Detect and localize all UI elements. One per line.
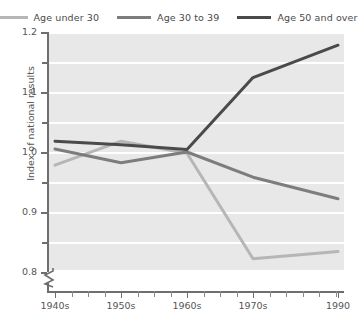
legend-item-age-50-and-over[interactable]: Age 50 and over [237, 12, 357, 23]
y-axis-line [47, 32, 49, 272]
x-tick-major [55, 291, 56, 298]
y-axis-title: Index of national results [25, 44, 36, 204]
legend-swatch-age-50-and-over [237, 16, 271, 19]
series-layer [49, 32, 344, 272]
x-tick-major [121, 291, 122, 298]
axis-break-icon [41, 268, 57, 288]
legend-label-age-30-to-39: Age 30 to 39 [157, 12, 219, 23]
x-tick-major [253, 291, 254, 298]
y-tick-minor [42, 122, 47, 124]
x-axis-label-1950s: 1950s [99, 300, 143, 311]
y-tick-major [41, 272, 47, 274]
x-axis-label-1990: 1990 [316, 300, 360, 311]
y-axis-label-1-1: 1.1 [7, 86, 37, 97]
y-axis-label-1-2: 1.2 [7, 26, 37, 37]
y-axis-label-0-8: 0.8 [7, 266, 37, 277]
x-tick-minor [319, 291, 320, 297]
x-axis-label-1960s: 1960s [165, 300, 209, 311]
x-tick-minor [336, 291, 337, 297]
x-tick-minor [270, 291, 271, 297]
x-tick-major [187, 291, 188, 298]
x-axis-label-1940s: 1940s [33, 300, 77, 311]
y-tick-major [41, 32, 47, 34]
series-line-age-30-to-39 [55, 149, 338, 199]
legend-swatch-age-30-to-39 [117, 16, 151, 19]
x-tick-minor [138, 291, 139, 297]
x-tick-minor [204, 291, 205, 297]
x-tick-minor [220, 291, 221, 297]
y-tick-major [41, 152, 47, 154]
x-tick-minor [72, 291, 73, 297]
x-tick-minor [154, 291, 155, 297]
legend-item-age-30-to-39[interactable]: Age 30 to 39 [117, 12, 219, 23]
y-tick-major [41, 92, 47, 94]
chart-legend: Age under 30 Age 30 to 39 Age 50 and ove… [0, 6, 351, 28]
x-tick-minor [286, 291, 287, 297]
y-tick-major [41, 212, 47, 214]
x-tick-major [338, 291, 339, 298]
y-tick-minor [42, 182, 47, 184]
series-line-age-50-and-over [55, 45, 338, 149]
y-axis-label-0-9: 0.9 [7, 206, 37, 217]
legend-label-age-50-and-over: Age 50 and over [277, 12, 357, 23]
x-tick-minor [303, 291, 304, 297]
legend-label-age-under-30: Age under 30 [34, 12, 100, 23]
x-tick-minor [105, 291, 106, 297]
x-tick-minor [171, 291, 172, 297]
y-tick-minor [42, 62, 47, 64]
y-axis-label-1-0: 1.0 [7, 146, 37, 157]
x-tick-minor [88, 291, 89, 297]
legend-swatch-age-under-30 [0, 16, 28, 19]
legend-item-age-under-30[interactable]: Age under 30 [0, 12, 99, 23]
x-axis-label-1970s: 1970s [231, 300, 275, 311]
x-axis-line [47, 291, 344, 293]
x-tick-minor [237, 291, 238, 297]
y-tick-minor [42, 242, 47, 244]
